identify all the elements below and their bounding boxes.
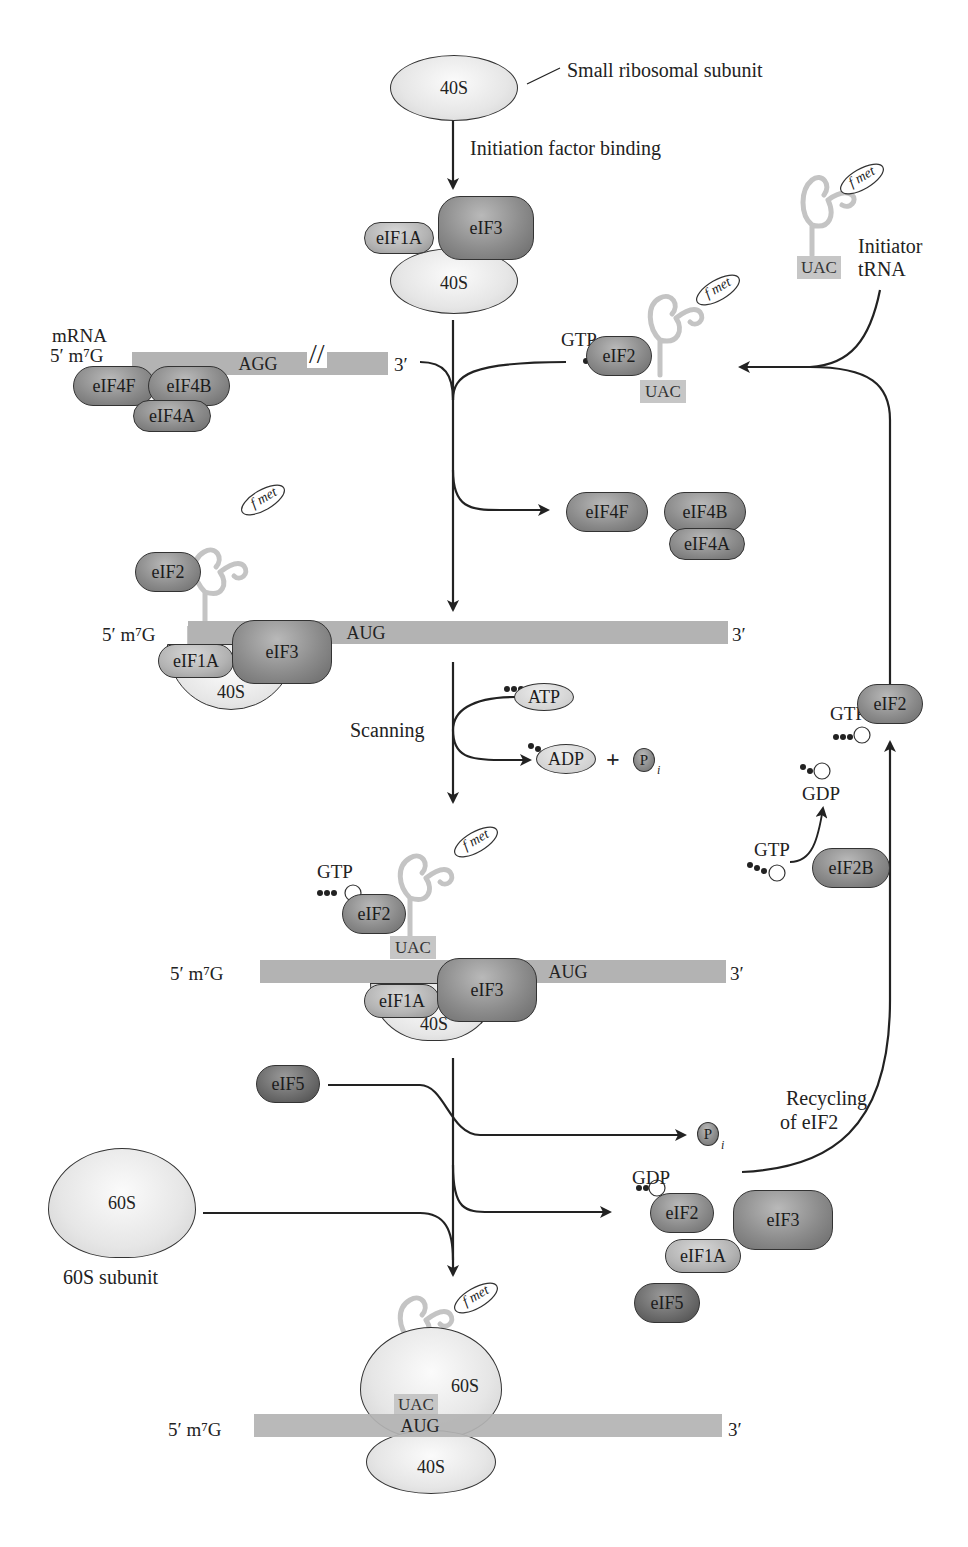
subunit-60s-caption: 60S subunit bbox=[63, 1267, 158, 1287]
eif3-released: eIF3 bbox=[733, 1190, 833, 1250]
gtp-label-aug: GTP bbox=[317, 862, 353, 881]
eif5-incoming: eIF5 bbox=[256, 1065, 320, 1103]
mrna-3prime: 3′ bbox=[732, 625, 746, 644]
eif3: eIF3 bbox=[437, 958, 537, 1022]
gdp-label-released: GDP bbox=[632, 1168, 670, 1187]
uac-anticodon-ternary: UAC bbox=[640, 380, 686, 403]
aug-codon: AUG bbox=[336, 621, 396, 644]
mrna-5prime-cap: 5′ m⁷G bbox=[170, 964, 224, 983]
eif2-recycled: eIF2 bbox=[857, 684, 923, 724]
plus-sign: + bbox=[606, 747, 620, 771]
eif2-label: eIF2 bbox=[603, 346, 636, 367]
aug-codon: AUG bbox=[538, 960, 598, 983]
gdp-label-exchange: GDP bbox=[802, 784, 840, 803]
eif4b-label: eIF4B bbox=[683, 502, 728, 523]
eif4f-released: eIF4F bbox=[566, 492, 648, 532]
eif1a-released: eIF1A bbox=[665, 1239, 741, 1273]
eif2b: eIF2B bbox=[812, 848, 890, 888]
initiation-factor-binding-label: Initiation factor binding bbox=[470, 138, 661, 158]
eif4b-released: eIF4B bbox=[664, 492, 746, 532]
uac-anticodon-initiator: UAC bbox=[797, 256, 841, 279]
eif4a-label: eIF4A bbox=[149, 406, 195, 427]
eif4f-label: eIF4F bbox=[585, 502, 628, 523]
eif5-label: eIF5 bbox=[651, 1293, 684, 1314]
eif4a-label: eIF4A bbox=[684, 534, 730, 555]
eif2-released: eIF2 bbox=[650, 1193, 714, 1233]
phosphate-pi-released: P bbox=[697, 1122, 719, 1146]
mrna-5prime-cap: 5′ m⁷G bbox=[50, 346, 104, 365]
adp: ADP bbox=[536, 744, 596, 774]
mrna-label: mRNA bbox=[52, 326, 107, 345]
ribosome-40s-label: 40S bbox=[366, 1455, 496, 1479]
mrna-5prime-cap: 5′ m⁷G bbox=[168, 1420, 222, 1439]
atp: ATP bbox=[514, 683, 574, 711]
eif1a: eIF1A bbox=[364, 222, 434, 254]
eif2-aug: eIF2 bbox=[342, 894, 406, 934]
eif3: eIF3 bbox=[232, 620, 332, 684]
agg-codon: AGG bbox=[228, 352, 288, 375]
eif3-label: eIF3 bbox=[767, 1210, 800, 1231]
eif1a-label: eIF1A bbox=[379, 991, 425, 1012]
eif2-ternary: eIF2 bbox=[586, 336, 652, 376]
phosphate-pi: P bbox=[633, 748, 655, 772]
adp-label: ADP bbox=[548, 749, 584, 770]
ribosome-40s-label: 40S bbox=[390, 55, 518, 121]
ribosome-60s-label: 60S bbox=[48, 1190, 196, 1216]
eif1a-label: eIF1A bbox=[680, 1246, 726, 1267]
eif1a-label: eIF1A bbox=[376, 228, 422, 249]
initiator-trna-label-line2: tRNA bbox=[858, 259, 906, 279]
small-subunit-caption: Small ribosomal subunit bbox=[567, 60, 763, 80]
gtp-label-exchange: GTP bbox=[754, 840, 790, 859]
eif1a-label: eIF1A bbox=[173, 651, 219, 672]
eif3-label: eIF3 bbox=[470, 218, 503, 239]
eif3-label: eIF3 bbox=[471, 980, 504, 1001]
recycling-label-line2: of eIF2 bbox=[780, 1112, 838, 1132]
eif2b-label: eIF2B bbox=[829, 858, 874, 879]
eif5-label: eIF5 bbox=[272, 1074, 305, 1095]
initiator-trna-label-line1: Initiator bbox=[858, 236, 922, 256]
scanning-label: Scanning bbox=[350, 720, 424, 740]
eif2-label: eIF2 bbox=[152, 562, 185, 583]
eif1a: eIF1A bbox=[364, 984, 440, 1018]
mrna-3prime: 3′ bbox=[394, 355, 408, 374]
break-mark: // bbox=[307, 340, 327, 368]
eif4f-label: eIF4F bbox=[92, 376, 135, 397]
uac-anticodon-80s: UAC bbox=[394, 1394, 438, 1415]
eif2-label: eIF2 bbox=[358, 904, 391, 925]
eif3: eIF3 bbox=[438, 196, 534, 260]
ribosome-60s-label: 60S bbox=[440, 1375, 490, 1397]
eif4a-bound: eIF4A bbox=[133, 400, 211, 432]
ribosome-40s-label: 40S bbox=[390, 263, 518, 303]
eif2-label: eIF2 bbox=[874, 694, 907, 715]
pi-label: P bbox=[704, 1126, 712, 1143]
mrna-5prime-cap: 5′ m⁷G bbox=[102, 625, 156, 644]
recycling-label-line1: Recycling bbox=[786, 1088, 867, 1108]
atp-label: ATP bbox=[528, 687, 560, 708]
mrna-strand-80s bbox=[254, 1414, 722, 1437]
eif2-label: eIF2 bbox=[666, 1203, 699, 1224]
aug-codon: AUG bbox=[390, 1414, 450, 1437]
pi-subscript: i bbox=[721, 1139, 724, 1151]
eif1a: eIF1A bbox=[158, 644, 234, 678]
eif2-scanning: eIF2 bbox=[135, 552, 201, 592]
eif3-label: eIF3 bbox=[266, 642, 299, 663]
mrna-3prime: 3′ bbox=[730, 964, 744, 983]
eif4b-label: eIF4B bbox=[167, 376, 212, 397]
uac-anticodon-aug: UAC bbox=[390, 936, 436, 959]
eif5-released: eIF5 bbox=[634, 1283, 700, 1323]
pi-label: P bbox=[640, 752, 648, 769]
eif4a-released: eIF4A bbox=[669, 528, 745, 560]
pi-subscript: i bbox=[657, 764, 660, 776]
mrna-3prime: 3′ bbox=[728, 1420, 742, 1439]
